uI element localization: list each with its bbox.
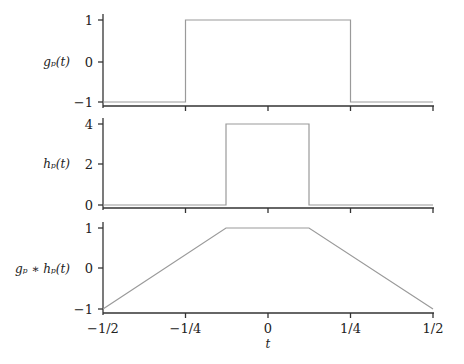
y-tick-label: 2 [85,157,93,172]
hp-curve [103,124,433,205]
panel-gp: 1 0 −1 gₚ(t) [43,13,434,111]
convolution-curve [103,228,433,309]
y-tick-label: 0 [85,55,93,70]
gp-curve [103,20,433,102]
figure: 1 0 −1 gₚ(t) 4 2 0 hₚ(t) 1 0 −1 gₚ ∗ [0,0,464,364]
x-axis-label: t [266,337,271,351]
panel-convolution: 1 0 −1 gₚ ∗ hₚ(t) −1/2 −1/4 0 1/4 1/2 t [15,221,443,351]
x-tick-label: 1/4 [340,321,361,336]
y-axis-label: gₚ(t) [43,55,70,69]
y-tick-label: 1 [85,13,93,28]
y-tick-label: 1 [85,221,93,236]
y-axis-label: hₚ(t) [43,157,70,171]
y-tick-label: 0 [85,261,93,276]
x-tick-label: −1/4 [170,321,202,336]
y-tick-label: 0 [85,198,93,213]
x-tick-label: −1/2 [87,321,119,336]
y-tick-label: −1 [74,302,93,317]
y-tick-label: 4 [85,117,93,132]
y-tick-label: −1 [74,95,93,110]
x-tick-label: 1/2 [423,321,444,336]
panel-hp: 4 2 0 hₚ(t) [43,117,434,213]
x-tick-label: 0 [264,321,272,336]
y-axis-label: gₚ ∗ hₚ(t) [15,262,70,276]
